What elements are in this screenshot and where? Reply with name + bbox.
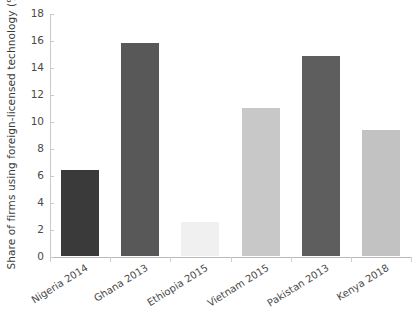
y-axis-tick-label: 0 bbox=[10, 250, 44, 264]
y-axis-tick-label: 8 bbox=[10, 142, 44, 156]
bar-slot bbox=[110, 14, 170, 256]
bar[interactable] bbox=[181, 222, 219, 256]
x-axis-tick-mark bbox=[291, 257, 292, 262]
y-axis-tick-label: 16 bbox=[10, 34, 44, 48]
x-axis-tick-mark bbox=[170, 257, 171, 262]
bar-slot bbox=[231, 14, 291, 256]
y-axis-tick-label: 14 bbox=[10, 61, 44, 75]
x-axis-tick-mark bbox=[351, 257, 352, 262]
bar-slot bbox=[351, 14, 411, 256]
x-axis-tick-mark bbox=[110, 257, 111, 262]
bar[interactable] bbox=[61, 170, 99, 256]
y-axis-tick-label: 6 bbox=[10, 169, 44, 183]
bar-slot bbox=[291, 14, 351, 256]
y-axis-tick-label: 2 bbox=[10, 223, 44, 237]
y-axis-tick-label: 4 bbox=[10, 196, 44, 210]
bar[interactable] bbox=[121, 43, 159, 256]
x-axis-tick-mark bbox=[231, 257, 232, 262]
plot-area: 024681012141618 bbox=[50, 14, 411, 257]
bar-slot bbox=[50, 14, 110, 256]
y-axis-tick-label: 10 bbox=[10, 115, 44, 129]
bar[interactable] bbox=[302, 56, 340, 256]
bar-chart-figure: Share of firms using foreign-licensed te… bbox=[0, 0, 418, 322]
x-axis-tick-mark bbox=[411, 257, 412, 262]
bar-slot bbox=[170, 14, 230, 256]
x-axis-tick-mark bbox=[50, 257, 51, 262]
bar[interactable] bbox=[362, 130, 400, 256]
bar[interactable] bbox=[242, 108, 280, 257]
y-axis-tick-label: 18 bbox=[10, 7, 44, 21]
y-axis-tick-label: 12 bbox=[10, 88, 44, 102]
